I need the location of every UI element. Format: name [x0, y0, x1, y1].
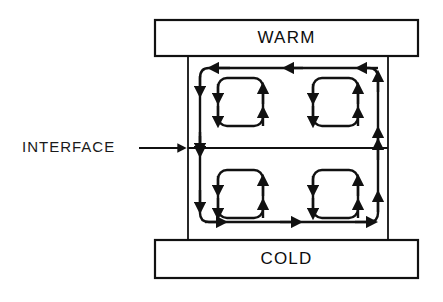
- bottom-left-cell-flow: [200, 148, 297, 222]
- top-left-inner-loop: [218, 78, 263, 126]
- interface-annotation: INTERFACE: [22, 138, 182, 155]
- top-left-inner-loop-group: [218, 78, 263, 126]
- bottom-left-outer-loop: [200, 148, 289, 222]
- top-right-inner-loop: [313, 78, 358, 126]
- bottom-left-inner-loop: [218, 170, 263, 218]
- top-right-inner-loop-group: [313, 78, 358, 126]
- bottom-right-cell-flow: [289, 148, 378, 222]
- interface-label: INTERFACE: [22, 138, 115, 155]
- bottom-right-inner-loop-group: [313, 170, 358, 218]
- bottom-left-inner-loop-group: [218, 170, 263, 218]
- bottom-right-inner-loop: [313, 170, 358, 218]
- convection-diagram-canvas: WARM COLD INTERFACE: [0, 0, 443, 302]
- top-left-outer-loop: [200, 68, 289, 148]
- convection-diagram: WARM COLD INTERFACE: [0, 0, 443, 302]
- bottom-right-outer-loop: [289, 148, 378, 222]
- top-left-cell-flow: [200, 68, 303, 149]
- top-right-cell-flow: [289, 68, 378, 149]
- cold-plate-label: COLD: [260, 249, 312, 268]
- warm-plate-label: WARM: [258, 28, 316, 47]
- top-right-outer-loop: [289, 68, 378, 148]
